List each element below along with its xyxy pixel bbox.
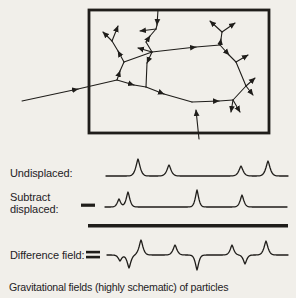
particle-link xyxy=(120,62,124,71)
waveform-undisplaced xyxy=(106,159,288,176)
field-vector-arrow xyxy=(146,36,150,42)
field-vector-arrow xyxy=(117,80,134,85)
particle-link xyxy=(233,86,246,100)
field-vector-arrow xyxy=(196,110,199,139)
operator-difference-field xyxy=(86,256,100,259)
field-vector-arrow xyxy=(140,29,156,31)
difference-field-label: Difference field: xyxy=(10,249,85,261)
field-vector-arrow xyxy=(22,89,78,101)
particle-box xyxy=(89,10,269,133)
particle-link xyxy=(196,45,220,47)
particle-link xyxy=(112,41,118,51)
waveform-difference-field xyxy=(107,240,288,270)
particle-link xyxy=(221,32,222,39)
waveform-subtract-displaced xyxy=(105,190,287,207)
subtract-displaced-label: Subtract displaced: xyxy=(10,191,59,215)
field-vector-arrow xyxy=(157,10,158,25)
field-vector-arrow xyxy=(146,87,164,94)
figure: Undisplaced: Subtract displaced: Differe… xyxy=(0,0,296,298)
field-vector-arrow xyxy=(210,21,222,32)
field-vector-arrow xyxy=(246,78,255,86)
field-vector-arrow xyxy=(220,39,221,45)
particle-link xyxy=(78,80,117,89)
subtract-label-line2: displaced: xyxy=(10,203,59,215)
particle-link xyxy=(146,63,147,87)
particle-link xyxy=(236,62,246,86)
operator-subtract-displaced xyxy=(81,204,95,207)
difference-label-text: Difference field: xyxy=(10,249,85,261)
field-vector-arrow xyxy=(152,47,196,52)
field-vector-arrow xyxy=(231,100,233,112)
field-vector-arrow xyxy=(236,55,248,62)
particle-link xyxy=(134,85,146,87)
field-vector-arrow xyxy=(233,100,240,112)
field-vector-arrow xyxy=(117,71,120,80)
subtract-label-line1: Subtract xyxy=(10,191,59,203)
figure-caption: Gravitational fields (highly schematic) … xyxy=(9,281,228,293)
particle-link xyxy=(164,94,192,102)
particle-link xyxy=(156,25,157,29)
field-vector-arrow xyxy=(222,23,235,32)
particle-link xyxy=(229,55,236,62)
field-vector-arrow xyxy=(103,32,112,41)
undisplaced-label-text: Undisplaced: xyxy=(10,167,72,179)
field-vector-arrow xyxy=(192,101,219,102)
field-vector-arrow xyxy=(246,86,253,95)
particle-link xyxy=(219,100,233,101)
undisplaced-label: Undisplaced: xyxy=(10,167,72,179)
field-vector-arrow xyxy=(220,45,229,55)
field-vector-arrow xyxy=(118,51,124,62)
separator-bar xyxy=(88,224,288,228)
operator-difference-field xyxy=(86,251,100,254)
field-vector-arrow xyxy=(112,26,118,41)
